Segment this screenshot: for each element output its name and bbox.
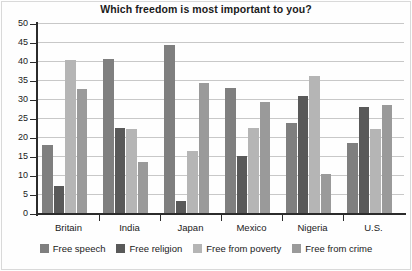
legend-item[interactable]: Free speech (40, 243, 106, 254)
legend-label: Free from crime (305, 243, 372, 254)
y-tick-mark (30, 100, 36, 101)
y-tick-mark (30, 195, 36, 196)
legend-swatch-icon (40, 244, 49, 253)
x-category-separator (160, 214, 161, 221)
bar-chart-figure: Which freedom is most important to you? … (0, 0, 412, 271)
y-tick-label: 15 (2, 151, 28, 161)
bar (298, 96, 309, 214)
y-tick-mark (30, 138, 36, 139)
x-category-separator (99, 214, 100, 221)
legend-swatch-icon (193, 244, 202, 253)
y-tick-label: 50 (2, 18, 28, 28)
bar (382, 105, 393, 214)
gridline (38, 137, 404, 138)
bar (370, 129, 381, 214)
legend-swatch-icon (292, 244, 301, 253)
bar (260, 102, 271, 214)
bar (248, 128, 259, 214)
legend-item[interactable]: Free from poverty (193, 243, 281, 254)
gridline (38, 118, 404, 119)
bar (347, 143, 358, 214)
y-tick-label: 5 (2, 189, 28, 199)
y-tick-mark (30, 176, 36, 177)
bar (164, 45, 175, 214)
y-tick-label: 35 (2, 75, 28, 85)
gridline (38, 23, 404, 24)
bar (176, 201, 187, 214)
gridline (38, 61, 404, 62)
bar (54, 186, 65, 215)
legend-swatch-icon (116, 244, 125, 253)
chart-legend: Free speechFree religionFree from povert… (0, 243, 412, 254)
bar (65, 60, 76, 214)
bar (187, 151, 198, 214)
legend-label: Free religion (129, 243, 182, 254)
bar (359, 107, 370, 214)
y-tick-mark (30, 214, 36, 215)
x-category-label: Britain (38, 222, 99, 233)
x-category-label: Nigeria (282, 222, 343, 233)
legend-item[interactable]: Free religion (116, 243, 182, 254)
bar (321, 174, 332, 214)
legend-label: Free from poverty (206, 243, 281, 254)
y-tick-label: 30 (2, 94, 28, 104)
chart-title: Which freedom is most important to you? (0, 3, 412, 15)
plot-area (38, 24, 404, 214)
x-category-separator (343, 214, 344, 221)
y-tick-mark (30, 24, 36, 25)
bar (225, 88, 236, 214)
bar (138, 162, 149, 214)
y-tick-label: 40 (2, 56, 28, 66)
y-tick-mark (30, 81, 36, 82)
y-tick-label: 0 (2, 208, 28, 218)
legend-label: Free speech (53, 243, 106, 254)
bar (309, 76, 320, 214)
x-category-separator (282, 214, 283, 221)
bar (126, 129, 137, 215)
bar (286, 123, 297, 214)
x-category-label: India (99, 222, 160, 233)
bar (103, 59, 114, 214)
bar (237, 156, 248, 214)
y-tick-mark (30, 157, 36, 158)
y-axis-line (36, 22, 38, 216)
legend-item[interactable]: Free from crime (292, 243, 372, 254)
y-tick-label: 10 (2, 170, 28, 180)
gridline (38, 42, 404, 43)
y-tick-mark (30, 62, 36, 63)
bar (42, 145, 53, 214)
bar (115, 128, 126, 214)
bar (199, 83, 210, 214)
y-tick-label: 25 (2, 113, 28, 123)
y-tick-label: 45 (2, 37, 28, 47)
x-category-label: Japan (160, 222, 221, 233)
y-tick-mark (30, 43, 36, 44)
y-tick-mark (30, 119, 36, 120)
y-tick-label: 20 (2, 132, 28, 142)
gridline (38, 80, 404, 81)
bar (77, 89, 88, 214)
x-category-label: Mexico (221, 222, 282, 233)
x-category-label: U.S. (343, 222, 404, 233)
gridline (38, 99, 404, 100)
x-category-separator (221, 214, 222, 221)
